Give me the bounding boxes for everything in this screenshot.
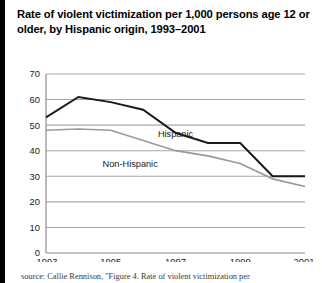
x-tick-label: 1995: [100, 256, 121, 262]
y-tick-labels-group: 010203040506070: [30, 68, 40, 258]
y-tick-label: 10: [30, 222, 40, 233]
series-labels-group: HispanicNon-Hispanic: [103, 129, 194, 170]
series-label-non-hispanic: Non-Hispanic: [103, 159, 159, 169]
series-label-hispanic: Hispanic: [158, 129, 194, 139]
y-tick-label: 40: [30, 145, 40, 156]
y-tick-label: 60: [30, 94, 40, 105]
chart-plot-area: 010203040506070 19931995199719992001 His…: [5, 62, 322, 262]
source-note: source: Callie Rennison, "Figure 4. Rate…: [21, 272, 321, 281]
y-tick-label: 70: [30, 68, 40, 79]
page-title: Rate of violent victimization per 1,000 …: [17, 7, 315, 36]
axes-group: [46, 74, 305, 253]
data-series-group: [46, 97, 305, 187]
figure-frame: Rate of violent victimization per 1,000 …: [0, 0, 322, 283]
x-tick-labels-group: 19931995199719992001: [37, 256, 315, 262]
y-tick-label: 20: [30, 196, 40, 207]
x-tick-label: 1997: [165, 256, 186, 262]
x-tick-label: 1999: [230, 256, 251, 262]
y-tick-label: 50: [30, 120, 40, 131]
line-chart: 010203040506070 19931995199719992001 His…: [5, 62, 322, 262]
x-tick-label: 2001: [294, 256, 315, 262]
y-tick-label: 30: [30, 171, 40, 182]
x-tick-label: 1993: [37, 256, 58, 262]
